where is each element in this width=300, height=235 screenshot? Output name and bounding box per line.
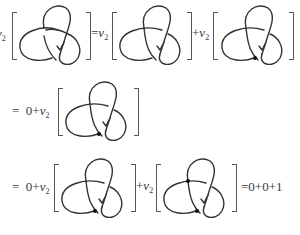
right-bracket bbox=[232, 164, 237, 212]
lead-label-row3: = 0+v2 bbox=[12, 180, 49, 196]
subscript: 2 bbox=[205, 33, 209, 42]
subscript: 2 bbox=[2, 34, 6, 43]
equals-zero-plus: = 0+ bbox=[12, 103, 40, 118]
result-label: =0+0+1 bbox=[241, 180, 283, 193]
singular-trefoil-knot-row2 bbox=[62, 78, 132, 146]
singular-trefoil-knot-row3a bbox=[58, 155, 128, 223]
trefoil-knot-2 bbox=[116, 2, 186, 70]
singular-trefoil-knot-3 bbox=[218, 2, 288, 70]
lead-label-row2: = 0+v2 bbox=[12, 104, 49, 120]
right-bracket bbox=[289, 12, 294, 60]
equals-zero-plus: = 0+ bbox=[12, 179, 40, 194]
plus-v2-label: +v2 bbox=[192, 26, 209, 42]
plus-v2-label-row3: +v2 bbox=[136, 179, 153, 195]
double-point-marker bbox=[195, 209, 199, 213]
subscript: 2 bbox=[104, 33, 108, 42]
trefoil-knot-1 bbox=[16, 2, 86, 70]
subscript: 2 bbox=[149, 186, 153, 195]
subscript: 2 bbox=[45, 187, 49, 196]
double-point-marker bbox=[186, 179, 190, 183]
v2-label-1: v2 bbox=[0, 27, 6, 43]
subscript: 2 bbox=[45, 111, 49, 120]
double-point-marker bbox=[253, 56, 257, 60]
equals-v2-label: =v2 bbox=[91, 26, 108, 42]
right-bracket bbox=[134, 88, 139, 136]
double-point-marker bbox=[97, 132, 101, 136]
double-point-marker bbox=[93, 209, 97, 213]
double-singular-trefoil-knot-row3b bbox=[160, 155, 230, 223]
